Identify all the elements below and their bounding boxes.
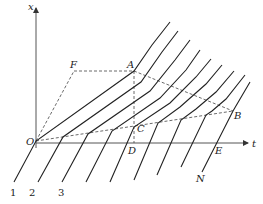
characteristic-line-7: [157, 71, 234, 175]
point-label-n: N: [196, 174, 205, 184]
point-label-c: C: [137, 124, 145, 134]
point-label-f: F: [70, 60, 77, 70]
point-label-a: A: [127, 60, 134, 70]
characteristic-line-N: [202, 82, 250, 172]
characteristic-line-6: [134, 65, 222, 180]
point-label-b: B: [234, 111, 241, 121]
horizontal-axis-label: t: [252, 139, 256, 149]
characteristic-lines: [14, 22, 250, 182]
point-label-e: E: [215, 146, 222, 156]
line-label-1: 1: [10, 188, 16, 198]
characteristic-line-1: [14, 22, 170, 182]
characteristic-line-2: [38, 31, 178, 182]
point-label-d: D: [128, 146, 136, 156]
line-label-2: 2: [29, 188, 35, 198]
characteristic-line-8: [181, 75, 245, 167]
characteristic-line-3: [62, 40, 190, 182]
characteristics-diagram: [0, 0, 263, 204]
point-label-o: O: [26, 137, 34, 147]
line-label-3: 3: [58, 188, 64, 198]
dashed-boundaries: [36, 71, 233, 143]
vertical-axis-label: x: [28, 2, 34, 12]
